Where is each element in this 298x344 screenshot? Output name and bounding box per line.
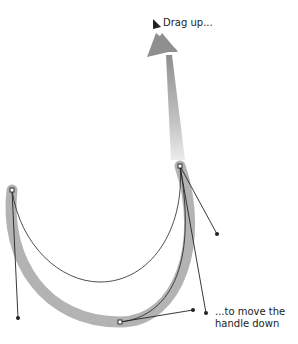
anchor-points[interactable] (10, 164, 182, 324)
arrow-cursor-icon (152, 18, 162, 30)
bezier-diagram (0, 0, 298, 344)
right-handle-point (215, 232, 219, 236)
up-arrow-icon (147, 33, 185, 160)
right-anchor (178, 164, 182, 168)
left-anchor (10, 188, 14, 192)
new-path-segment (120, 166, 185, 322)
bottom-handle-point (191, 308, 195, 312)
left-handle-point (16, 316, 20, 320)
bottom-anchor (118, 320, 122, 324)
original-path (12, 166, 180, 282)
move-handle-annotation: ...to move the handle down (215, 306, 295, 330)
drag-up-annotation: Drag up... (163, 17, 213, 29)
dragged-handle-point (204, 311, 208, 315)
